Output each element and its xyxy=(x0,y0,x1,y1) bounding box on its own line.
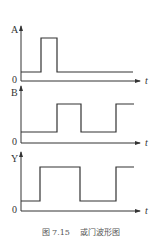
figure-caption: 图 7.15 或门波形图 xyxy=(0,226,162,237)
time-label-a: t xyxy=(145,75,148,86)
waveform-panel-a: A 0 t xyxy=(11,24,148,86)
signal-a-label: A xyxy=(11,24,19,35)
signal-b-waveform xyxy=(21,104,134,132)
signal-y-waveform xyxy=(21,167,134,201)
time-label-b: t xyxy=(145,137,148,148)
signal-y-label: Y xyxy=(11,153,18,164)
or-gate-waveform-diagram: A 0 t B 0 t Y 0 t xyxy=(0,0,162,248)
signal-b-label: B xyxy=(11,87,18,98)
zero-label-b: 0 xyxy=(12,136,17,147)
waveform-panel-b: B 0 t xyxy=(11,86,148,148)
caption-number: 图 7.15 xyxy=(42,228,70,237)
waveform-panel-y: Y 0 t xyxy=(11,152,148,216)
zero-label-y: 0 xyxy=(12,204,17,215)
signal-a-waveform xyxy=(21,38,133,72)
caption-title: 或门波形图 xyxy=(80,228,120,237)
time-label-y: t xyxy=(145,205,148,216)
zero-label-a: 0 xyxy=(12,74,17,85)
